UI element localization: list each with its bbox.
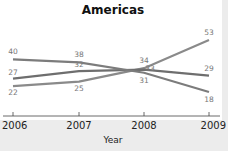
data-label: 31 [139,76,149,85]
x-tick-label: 2008 [131,120,156,131]
x-tick-label: 2006 [2,120,27,131]
x-tick-label: 2009 [201,120,226,131]
data-label: 33 [145,64,155,73]
x-ticks: 2006200720082009 [2,112,226,131]
data-label: 18 [204,95,214,104]
line-chart: Americas 222534532732332940383118 200620… [0,0,228,151]
data-label: 22 [8,88,18,97]
x-axis-label: Year [102,135,122,145]
data-label: 27 [8,68,18,77]
series-layer: 222534532732332940383118 [8,28,214,104]
data-label: 38 [74,50,84,59]
data-label: 40 [8,47,18,56]
series-line [13,40,209,86]
data-label: 25 [74,84,84,93]
chart-title: Americas [82,3,144,17]
x-tick-label: 2007 [66,120,91,131]
data-label: 53 [204,28,214,37]
data-label: 29 [204,64,214,73]
